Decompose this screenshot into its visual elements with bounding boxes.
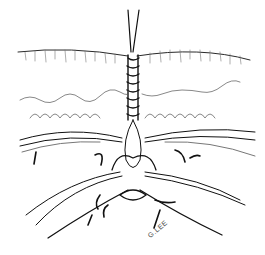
suture-thread-left <box>128 10 131 52</box>
upper-tissue-right <box>137 52 250 60</box>
loop-threads <box>48 156 222 238</box>
line-drawing <box>0 0 265 255</box>
suture-thread-right <box>133 10 139 52</box>
wound-opening <box>125 120 141 168</box>
vessel-marks <box>34 150 200 228</box>
surgical-illustration: G.LEE <box>0 0 265 255</box>
suture-chain <box>127 55 139 120</box>
upper-tissue-left <box>18 50 128 56</box>
upper-arms <box>20 130 255 156</box>
lower-arms <box>26 172 245 225</box>
